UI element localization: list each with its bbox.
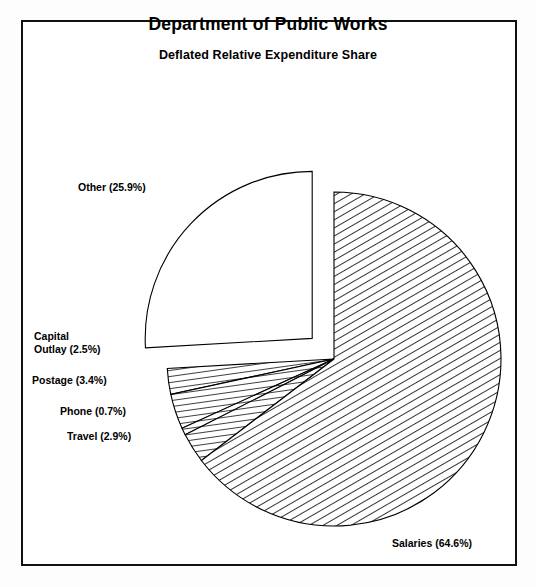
pie-slice-other — [145, 171, 312, 347]
pie-chart — [0, 0, 536, 587]
pie-slices — [145, 171, 501, 526]
